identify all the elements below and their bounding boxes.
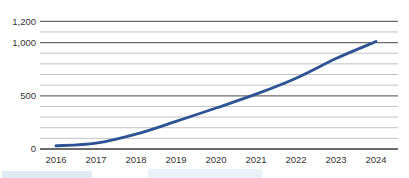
plot-svg: 05001,0001,20020162017201820192020202120… [0, 0, 409, 178]
y-tick-label: 1,200 [12, 16, 36, 27]
line-chart-figure: 05001,0001,20020162017201820192020202120… [0, 0, 409, 178]
x-tick-label: 2017 [85, 154, 106, 165]
x-tick-label: 2021 [245, 154, 266, 165]
x-tick-label: 2024 [365, 154, 386, 165]
y-tick-label: 1,000 [12, 37, 36, 48]
y-tick-label: 0 [31, 143, 36, 154]
x-tick-label: 2023 [325, 154, 346, 165]
x-tick-label: 2016 [45, 154, 66, 165]
x-tick-label: 2020 [205, 154, 226, 165]
x-tick-label: 2022 [285, 154, 306, 165]
y-tick-label: 500 [20, 90, 36, 101]
x-tick-label: 2018 [125, 154, 146, 165]
data-line-series [56, 42, 376, 146]
x-tick-label: 2019 [165, 154, 186, 165]
